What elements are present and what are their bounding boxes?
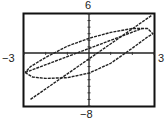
- curve-diagonal-through-loop: [25, 29, 142, 73]
- graph-plot: [0, 0, 167, 122]
